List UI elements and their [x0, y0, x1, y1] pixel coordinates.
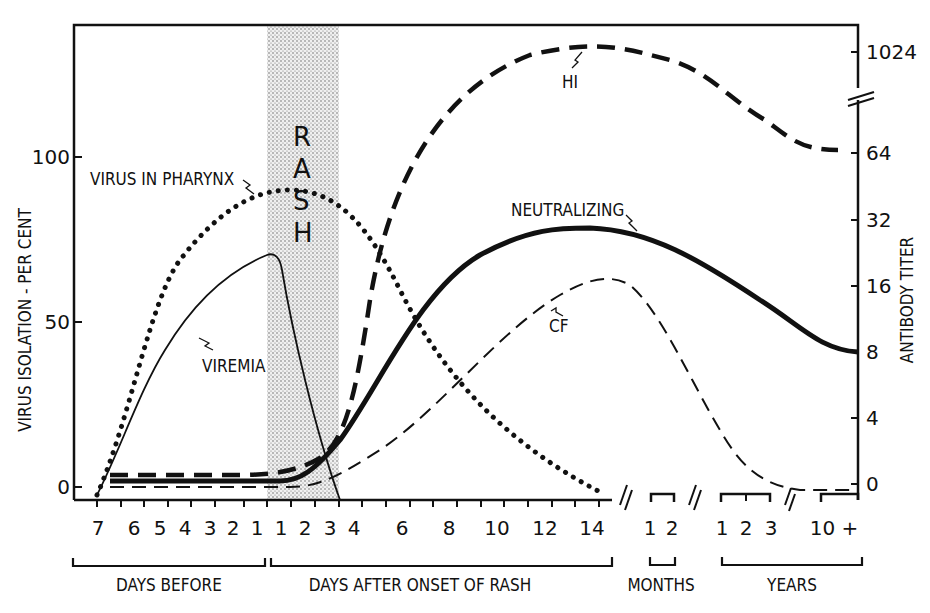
x-tick-labels-months: 1 2: [644, 516, 679, 540]
x-tick-labels-days-before: 7 6 5 4 3 2 1: [92, 516, 264, 540]
x-tick-labels-days-after: 1 2 3 4 6 8 10 12 14: [275, 516, 605, 540]
svg-text:12: 12: [532, 516, 557, 540]
svg-text:6: 6: [128, 516, 141, 540]
x-tick-labels-years: 1 2 3 10 +: [716, 516, 859, 540]
x-group-brackets: [73, 557, 862, 566]
svg-text:2: 2: [299, 516, 312, 540]
svg-text:6: 6: [396, 516, 409, 540]
x-group-label-months: MONTHS: [627, 575, 694, 595]
svg-text:1: 1: [644, 516, 657, 540]
svg-text:16: 16: [866, 274, 891, 298]
svg-text:64: 64: [866, 141, 891, 165]
svg-text:4: 4: [866, 406, 879, 430]
svg-text:100: 100: [32, 145, 70, 169]
annotation-viremia-pointer-icon: [199, 338, 213, 350]
x-group-label-days-after: DAYS AFTER ONSET OF RASH: [309, 575, 531, 595]
svg-text:1: 1: [275, 516, 288, 540]
svg-text:1: 1: [716, 516, 729, 540]
svg-text:7: 7: [92, 516, 105, 540]
series-cf: [110, 279, 858, 490]
svg-text:3: 3: [765, 516, 778, 540]
svg-text:4: 4: [179, 516, 192, 540]
svg-text:4: 4: [348, 516, 361, 540]
left-axis-tick-labels: 0 50 100: [32, 145, 70, 499]
svg-text:2: 2: [227, 516, 240, 540]
svg-text:5: 5: [154, 516, 167, 540]
svg-text:3: 3: [324, 516, 337, 540]
svg-text:2: 2: [666, 516, 679, 540]
svg-text:10 +: 10 +: [810, 516, 859, 540]
antibody-response-chart: R A S H 7 6 5 4: [0, 0, 930, 613]
svg-text:3: 3: [204, 516, 217, 540]
svg-text:50: 50: [45, 310, 70, 334]
x-group-label-years: YEARS: [766, 575, 817, 595]
svg-text:2: 2: [740, 516, 753, 540]
annotation-hi: HI: [562, 72, 578, 92]
annotation-pharynx-pointer-icon: [243, 180, 254, 194]
svg-text:14: 14: [579, 516, 604, 540]
svg-text:8: 8: [866, 340, 879, 364]
annotation-pharynx: VIRUS IN PHARYNX: [90, 169, 234, 189]
left-axis-label: VIRUS ISOLATION - PER CENT: [15, 207, 35, 431]
svg-text:H: H: [293, 218, 313, 248]
svg-text:A: A: [293, 154, 311, 184]
svg-text:32: 32: [866, 208, 891, 232]
x-group-label-days-before: DAYS BEFORE: [116, 575, 222, 595]
svg-text:8: 8: [443, 516, 456, 540]
annotation-cf-pointer-icon: [551, 308, 563, 316]
svg-text:1: 1: [251, 516, 264, 540]
annotation-hi-pointer-icon: [572, 52, 582, 68]
annotation-neutralizing: NEUTRALIZING: [511, 200, 624, 220]
svg-text:R: R: [293, 122, 311, 152]
svg-text:1024: 1024: [866, 40, 917, 64]
annotation-viremia: VIREMIA: [202, 356, 266, 376]
svg-text:0: 0: [866, 472, 879, 496]
svg-text:0: 0: [57, 475, 70, 499]
right-axis-label: ANTIBODY TITER: [897, 236, 917, 363]
annotation-neutralizing-pointer-icon: [626, 215, 637, 231]
right-axis-break-icon: [848, 92, 874, 106]
annotation-cf: CF: [549, 316, 568, 336]
svg-text:10: 10: [484, 516, 509, 540]
series-neutralizing: [110, 228, 858, 481]
rash-shaded-region: [267, 25, 339, 499]
